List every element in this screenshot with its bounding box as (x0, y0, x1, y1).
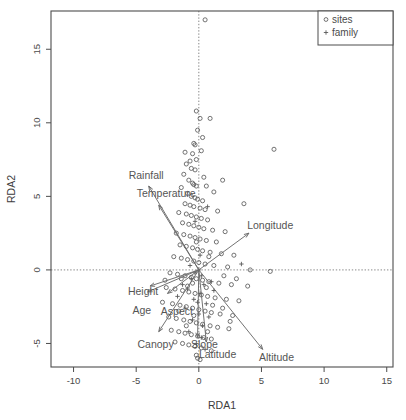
x-tick-label: -5 (132, 375, 140, 386)
site-point (216, 209, 220, 213)
vector-label-aspect: Aspect (161, 305, 193, 317)
site-point (224, 297, 228, 301)
site-point (194, 109, 198, 113)
y-tick-label: 5 (31, 194, 42, 199)
site-point (228, 319, 232, 323)
site-point (226, 265, 230, 269)
site-point (246, 284, 250, 288)
site-point (168, 271, 172, 275)
x-tick-label: 5 (259, 375, 264, 386)
site-point (175, 272, 179, 276)
site-point (177, 210, 181, 214)
site-point (198, 116, 202, 120)
site-point (180, 341, 184, 345)
site-point (192, 205, 196, 209)
vector-label-height: Height (128, 285, 158, 297)
family-point (192, 297, 196, 301)
x-axis-title: RDA1 (208, 399, 236, 411)
legend-label-family: family (332, 27, 358, 38)
site-point (206, 294, 210, 298)
site-point (189, 333, 193, 337)
family-point (204, 302, 208, 306)
site-point (186, 258, 190, 262)
site-point (272, 147, 276, 151)
site-point (194, 158, 198, 162)
site-point (194, 240, 198, 244)
site-point (184, 324, 188, 328)
site-point (208, 116, 212, 120)
site-point (208, 250, 212, 254)
site-point (212, 263, 216, 267)
site-point (209, 311, 213, 315)
site-point (201, 249, 205, 253)
vector-label-longitude: Longitude (247, 219, 293, 231)
site-point (188, 234, 192, 238)
site-point (189, 213, 193, 217)
site-point (184, 212, 188, 216)
site-point (206, 218, 210, 222)
site-point (179, 256, 183, 260)
family-point (239, 262, 243, 266)
vector-canopy (159, 270, 199, 332)
site-point (204, 286, 208, 290)
site-point (214, 240, 218, 244)
site-point (187, 178, 191, 182)
vector-label-rainfall: Rainfall (129, 169, 164, 181)
site-point (193, 168, 197, 172)
site-point (194, 277, 198, 281)
vector-label-latitude: Latitude (199, 348, 237, 360)
site-point (182, 172, 186, 176)
site-point (204, 184, 208, 188)
site-point (268, 269, 272, 273)
y-tick-label: -5 (31, 339, 42, 347)
vector-label-temperature: Temperature (137, 187, 196, 199)
site-point (178, 243, 182, 247)
site-point (183, 331, 187, 335)
site-point (180, 221, 184, 225)
site-point (187, 222, 191, 226)
site-point (188, 159, 192, 163)
site-point (198, 206, 202, 210)
site-point (182, 318, 186, 322)
site-point (194, 215, 198, 219)
site-point (164, 286, 168, 290)
biplot-vectors-layer (147, 186, 262, 349)
x-tick-label: 10 (319, 375, 330, 386)
x-tick-label: 15 (381, 375, 392, 386)
site-point (174, 316, 178, 320)
site-point (172, 255, 176, 259)
site-point (213, 296, 217, 300)
site-point (191, 246, 195, 250)
site-point (199, 149, 203, 153)
site-point (237, 299, 241, 303)
site-point (222, 274, 226, 278)
site-point (216, 325, 220, 329)
site-point (211, 303, 215, 307)
site-point (212, 190, 216, 194)
site-point (201, 199, 205, 203)
y-tick-label: 10 (31, 118, 42, 129)
vector-shaft-canopy (159, 270, 199, 332)
site-point (201, 278, 205, 282)
site-point (184, 162, 188, 166)
rda-ordination-plot: RainfallTemperatureLongitudeHeightAgeAsp… (0, 0, 406, 420)
site-point (229, 283, 233, 287)
site-point (193, 236, 197, 240)
vector-label-canopy: Canopy (138, 338, 175, 350)
site-point (218, 312, 222, 316)
site-point (203, 208, 207, 212)
site-point (223, 230, 227, 234)
y-tick-label: 0 (31, 267, 42, 272)
vector-shaft-latitude (199, 270, 207, 342)
site-point (202, 227, 206, 231)
site-point (199, 216, 203, 220)
site-point (203, 18, 207, 22)
site-point (208, 324, 212, 328)
family-point (197, 312, 201, 316)
family-point (198, 253, 202, 257)
site-point (201, 135, 205, 139)
x-tick-label: 0 (196, 375, 201, 386)
family-point (195, 300, 199, 304)
site-point (234, 277, 238, 281)
site-point (202, 175, 206, 179)
